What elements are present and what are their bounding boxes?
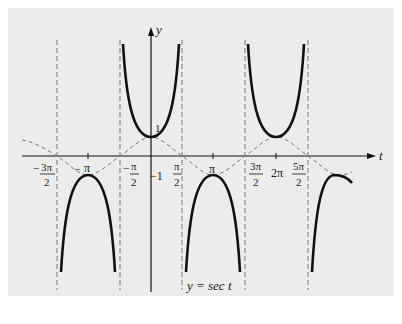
asymptotes — [57, 40, 308, 290]
svg-text:2: 2 — [174, 176, 180, 188]
svg-text:5π: 5π — [293, 160, 305, 172]
branch-three-pi — [312, 175, 352, 272]
svg-text:3π: 3π — [250, 160, 262, 172]
axes — [22, 27, 376, 292]
branch-two-pi — [248, 44, 304, 137]
y-neg-one-label: −1 — [150, 169, 163, 183]
tick-labels: − 3π 2 − π − π 2 −1 π 2 π 3π 2 2π 5π 2 — [33, 160, 306, 188]
branch-pi — [186, 175, 240, 272]
svg-text:2: 2 — [131, 176, 137, 188]
svg-text:π: π — [131, 160, 137, 172]
svg-text:π: π — [209, 162, 215, 176]
sec-chart: y t 1 − 3π 2 − π − π 2 −1 π 2 π 3π 2 2π … — [0, 0, 402, 324]
equation-label: y = sec t — [185, 278, 232, 293]
t-axis-arrow-icon — [367, 153, 376, 159]
svg-text:2: 2 — [296, 176, 302, 188]
y-axis-label: y — [154, 22, 162, 37]
y-axis-arrow-icon — [148, 27, 154, 36]
svg-text:2: 2 — [44, 176, 50, 188]
svg-text:π: π — [84, 161, 90, 175]
svg-text:3π: 3π — [41, 161, 53, 173]
svg-text:−: − — [33, 161, 40, 175]
y-one-label: 1 — [155, 122, 161, 134]
branch-neg-pi — [61, 175, 115, 272]
svg-text:−: − — [123, 161, 130, 175]
secant-curve — [61, 44, 352, 272]
t-axis-label: t — [379, 148, 383, 163]
svg-text:2π: 2π — [271, 166, 283, 180]
svg-text:2: 2 — [253, 176, 259, 188]
svg-text:π: π — [174, 160, 180, 172]
svg-text:−: − — [74, 162, 81, 176]
